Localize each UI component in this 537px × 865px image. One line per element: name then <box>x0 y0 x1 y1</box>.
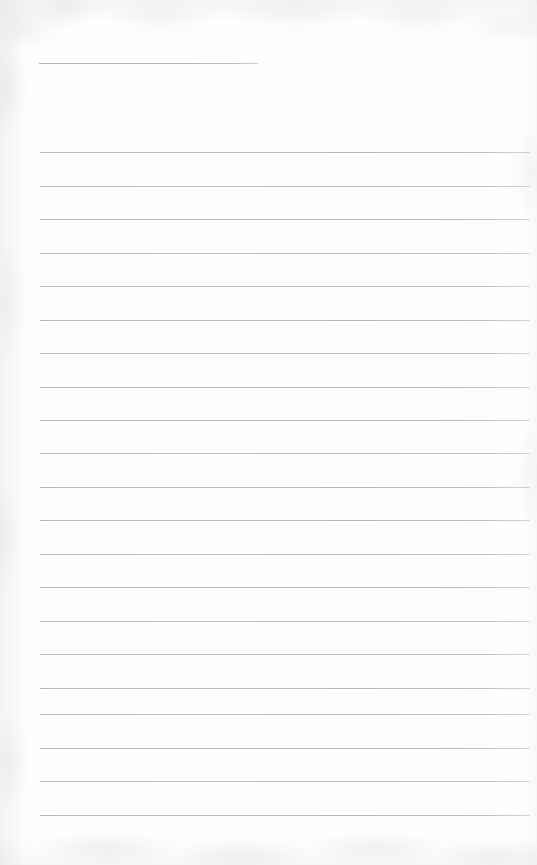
rule-19 <box>40 748 530 749</box>
rule-16 <box>40 654 530 655</box>
rule-7 <box>40 353 530 354</box>
rule-18 <box>40 714 530 715</box>
rule-2 <box>40 186 530 187</box>
notebook-page <box>0 0 537 865</box>
rule-9 <box>40 420 530 421</box>
rule-11 <box>40 487 530 488</box>
rule-1 <box>40 152 530 153</box>
rule-4 <box>40 253 530 254</box>
ruled-lines-layer <box>0 0 537 865</box>
rule-13 <box>40 554 530 555</box>
rule-5 <box>40 286 530 287</box>
rule-15 <box>40 621 530 622</box>
rule-21 <box>40 815 530 816</box>
rule-12 <box>40 520 530 521</box>
title-rule <box>39 63 258 64</box>
rule-17 <box>40 688 530 689</box>
rule-3 <box>40 219 530 220</box>
rule-8 <box>40 387 530 388</box>
rule-6 <box>40 320 530 321</box>
rule-20 <box>40 781 530 782</box>
rule-14 <box>40 587 530 588</box>
rule-10 <box>40 453 530 454</box>
